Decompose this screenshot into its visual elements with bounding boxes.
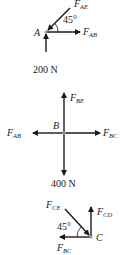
force-label-200n: 200 N — [33, 64, 58, 75]
free-body-diagrams: A 45° FAE FAB 200 N B FBE FAB FBC 400 N … — [0, 0, 127, 255]
force-label-fbe: FBE — [69, 92, 84, 104]
force-label-fce: FCE — [45, 199, 60, 211]
force-label-fbc-b: FBC — [102, 127, 118, 139]
joint-label-a: A — [33, 27, 41, 38]
joint-label-c: C — [96, 232, 103, 243]
force-label-400n: 400 N — [51, 178, 76, 189]
angle-label-c: 45° — [57, 221, 71, 232]
joint-a-diagram: A 45° FAE FAB 200 N — [33, 0, 97, 75]
joint-c-diagram: C 45° FCE FCD FBC — [45, 199, 112, 254]
joint-node-a — [44, 30, 47, 33]
joint-node-c — [89, 235, 92, 238]
force-label-fcd: FCD — [96, 206, 112, 218]
force-label-fbc-c: FBC — [56, 242, 72, 254]
force-label-fae: FAE — [73, 0, 88, 10]
joint-b-diagram: B FBE FAB FBC 400 N — [6, 92, 118, 189]
force-label-fab-b: FAB — [6, 127, 21, 139]
angle-arc-c — [77, 227, 81, 237]
angle-arc-a — [55, 24, 58, 33]
angle-label-a: 45° — [63, 14, 77, 25]
joint-label-b: B — [53, 120, 59, 131]
force-label-fab: FAB — [82, 26, 97, 38]
joint-node-b — [62, 131, 65, 134]
